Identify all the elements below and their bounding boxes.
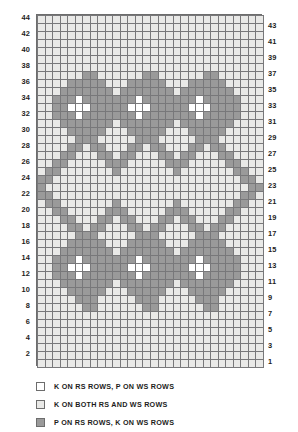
chart-cell: [248, 352, 256, 360]
legend: K ON RS ROWS, P ON WS ROWSK ON BOTH RS A…: [36, 378, 276, 432]
chart-cell: [135, 80, 143, 88]
chart-cell: [188, 296, 196, 304]
chart-cell: [53, 88, 61, 96]
chart-cell: [83, 328, 91, 336]
chart-cell: [241, 240, 249, 248]
chart-cell: [90, 168, 98, 176]
chart-cell: [68, 216, 76, 224]
chart-cell: [241, 296, 249, 304]
chart-cell: [120, 200, 128, 208]
chart-cell: [196, 256, 204, 264]
chart-cell: [68, 24, 76, 32]
chart-cell: [105, 24, 113, 32]
chart-cell: [83, 320, 91, 328]
row-label-left-28: 28: [2, 142, 30, 150]
chart-cell: [83, 336, 91, 344]
chart-cell: [75, 112, 83, 120]
chart-cell: [90, 352, 98, 360]
legend-label: K ON BOTH RS AND WS ROWS: [54, 400, 168, 409]
chart-cell: [150, 312, 158, 320]
chart-cell: [38, 152, 46, 160]
chart-cell: [128, 328, 136, 336]
chart-cell: [226, 80, 234, 88]
chart-cell: [226, 208, 234, 216]
chart-cell: [105, 264, 113, 272]
chart-cell: [188, 224, 196, 232]
row-label-left-20: 20: [2, 206, 30, 214]
chart-cell: [143, 248, 151, 256]
chart-cell: [233, 104, 241, 112]
chart-cell: [166, 232, 174, 240]
chart-cell: [196, 296, 204, 304]
chart-cell: [128, 176, 136, 184]
chart-cell: [38, 48, 46, 56]
chart-cell: [188, 144, 196, 152]
chart-cell: [211, 328, 219, 336]
chart-cell: [173, 328, 181, 336]
chart-cell: [256, 304, 264, 312]
chart-cell: [196, 168, 204, 176]
chart-cell: [45, 176, 53, 184]
chart-row: [38, 360, 264, 368]
chart-cell: [53, 48, 61, 56]
chart-cell: [211, 344, 219, 352]
chart-cell: [53, 312, 61, 320]
chart-cell: [211, 24, 219, 32]
chart-cell: [98, 264, 106, 272]
chart-cell: [135, 280, 143, 288]
chart-cell: [143, 32, 151, 40]
chart-cell: [98, 272, 106, 280]
chart-cell: [150, 112, 158, 120]
chart-cell: [150, 248, 158, 256]
chart-cell: [90, 136, 98, 144]
chart-cell: [53, 144, 61, 152]
chart-cell: [60, 48, 68, 56]
chart-cell: [45, 216, 53, 224]
chart-cell: [233, 48, 241, 56]
chart-cell: [256, 24, 264, 32]
chart-cell: [60, 80, 68, 88]
chart-cell: [241, 232, 249, 240]
chart-cell: [218, 296, 226, 304]
chart-cell: [173, 168, 181, 176]
chart-cell: [135, 328, 143, 336]
chart-cell: [226, 104, 234, 112]
chart-cell: [188, 136, 196, 144]
chart-cell: [128, 336, 136, 344]
chart-cell: [68, 240, 76, 248]
chart-cell: [256, 224, 264, 232]
chart-cell: [38, 288, 46, 296]
chart-cell: [38, 184, 46, 192]
chart-cell: [68, 208, 76, 216]
chart-cell: [188, 80, 196, 88]
chart-cell: [68, 56, 76, 64]
chart-cell: [45, 264, 53, 272]
chart-cell: [98, 56, 106, 64]
chart-cell: [98, 360, 106, 368]
chart-cell: [98, 120, 106, 128]
chart-cell: [128, 88, 136, 96]
chart-cell: [113, 152, 121, 160]
chart-cell: [90, 128, 98, 136]
chart-cell: [90, 72, 98, 80]
chart-cell: [211, 168, 219, 176]
chart-cell: [256, 320, 264, 328]
chart-cell: [166, 216, 174, 224]
chart-cell: [203, 16, 211, 24]
chart-cell: [233, 232, 241, 240]
chart-cell: [53, 16, 61, 24]
chart-cell: [196, 192, 204, 200]
chart-cell: [173, 200, 181, 208]
chart-cell: [256, 112, 264, 120]
chart-cell: [45, 64, 53, 72]
chart-cell: [105, 256, 113, 264]
chart-cell: [150, 296, 158, 304]
chart-cell: [90, 280, 98, 288]
chart-cell: [181, 224, 189, 232]
chart-cell: [241, 248, 249, 256]
chart-cell: [75, 88, 83, 96]
chart-cell: [75, 288, 83, 296]
chart-cell: [128, 264, 136, 272]
chart-cell: [113, 48, 121, 56]
chart-cell: [120, 24, 128, 32]
